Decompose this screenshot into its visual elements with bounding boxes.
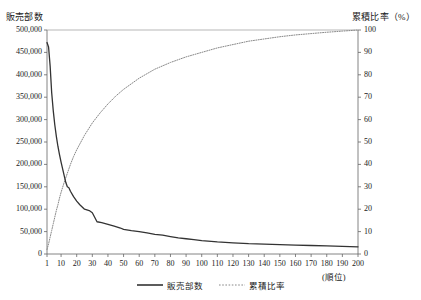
y-axis-left-tick-label: 150,000 bbox=[0, 183, 42, 191]
y-axis-left-tick-label: 500,000 bbox=[0, 26, 42, 34]
y-axis-left-tick-label: 50,000 bbox=[0, 228, 42, 236]
y-axis-right-tick-label: 60 bbox=[364, 116, 372, 124]
y-axis-left-tick-label: 450,000 bbox=[0, 48, 42, 56]
legend-item: 累積比率 bbox=[219, 279, 285, 291]
legend-solid-line-icon bbox=[137, 281, 163, 289]
y-axis-left-tick-label: 250,000 bbox=[0, 138, 42, 146]
y-axis-right-tick-label: 90 bbox=[364, 48, 372, 56]
y-axis-left-tick-label: 300,000 bbox=[0, 116, 42, 124]
y-axis-right-tick-label: 80 bbox=[364, 71, 372, 79]
y-axis-right-tick-label: 50 bbox=[364, 138, 372, 146]
pareto-chart: 販売部数 累積比率（%） (順位) 050,000100,000150,0002… bbox=[0, 0, 421, 300]
bottom-axis-ticks bbox=[47, 254, 358, 257]
chart-legend: 販売部数累積比率 bbox=[0, 279, 421, 291]
y-axis-left-tick-label: 200,000 bbox=[0, 160, 42, 168]
right-axis-ticks bbox=[358, 30, 361, 254]
y-axis-left-tick-label: 0 bbox=[0, 250, 42, 258]
x-axis-tick-label: 200 bbox=[346, 260, 370, 268]
left-axis-ticks bbox=[44, 30, 47, 254]
plot-area bbox=[0, 0, 421, 300]
y-axis-right-tick-label: 0 bbox=[364, 250, 368, 258]
y-axis-left-title: 販売部数 bbox=[6, 10, 43, 23]
y-axis-right-title: 累積比率（%） bbox=[352, 10, 415, 23]
legend-item: 販売部数 bbox=[137, 279, 203, 291]
y-axis-right-tick-label: 40 bbox=[364, 160, 372, 168]
y-axis-right-tick-label: 20 bbox=[364, 205, 372, 213]
y-axis-right-tick-label: 100 bbox=[364, 26, 376, 34]
y-axis-left-tick-label: 400,000 bbox=[0, 71, 42, 79]
legend-label: 販売部数 bbox=[167, 279, 203, 291]
legend-label: 累積比率 bbox=[249, 279, 285, 291]
series-line-sales-volume bbox=[47, 43, 358, 247]
y-axis-right-tick-label: 30 bbox=[364, 183, 372, 191]
axis-lines bbox=[47, 30, 358, 254]
y-axis-right-tick-label: 10 bbox=[364, 228, 372, 236]
legend-dotted-line-icon bbox=[219, 281, 245, 289]
y-axis-left-tick-label: 100,000 bbox=[0, 205, 42, 213]
y-axis-right-tick-label: 70 bbox=[364, 93, 372, 101]
y-axis-left-tick-label: 350,000 bbox=[0, 93, 42, 101]
